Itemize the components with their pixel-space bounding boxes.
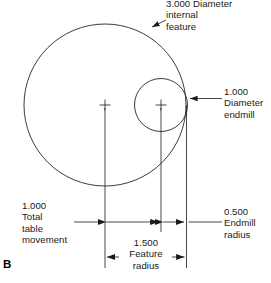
internal-feature-leader-line [152,20,166,27]
label-endmill-diameter-line1: 1.000 [224,86,263,97]
label-endmill-radius: 0.500 Endmill radius [224,206,256,240]
feature-center-mark [100,100,111,111]
label-endmill-radius-line3: radius [224,229,256,240]
endmill-center-mark [156,100,167,111]
figure-letter-label: B [3,258,12,270]
label-internal-feature: 3.000 Diameter internal feature [166,0,232,32]
label-endmill-radius-line1: 0.500 [224,206,256,217]
label-feature-radius-line3: radius [118,260,174,271]
label-endmill-diameter: 1.000 Diameter endmill [224,86,263,120]
label-table-movement-line1: 1.000 [22,200,67,211]
label-endmill-diameter-line3: endmill [224,109,263,120]
label-table-movement-line2: Total [22,211,67,222]
technical-diagram: 3.000 Diameter internal feature 1.000 Di… [0,0,271,283]
label-feature-radius-line1: 1.500 [118,237,174,248]
label-internal-feature-line3: feature [166,21,232,32]
label-internal-feature-line2: internal [166,9,232,20]
label-endmill-radius-line2: Endmill [224,217,256,228]
label-total-table-movement: 1.000 Total table movement [22,200,67,246]
label-endmill-diameter-line2: Diameter [224,97,263,108]
label-table-movement-line4: movement [22,234,67,245]
label-table-movement-line3: table [22,223,67,234]
label-feature-radius-line2: Feature [118,248,174,259]
label-internal-feature-line1: 3.000 Diameter [166,0,232,9]
label-feature-radius: 1.500 Feature radius [118,237,174,271]
